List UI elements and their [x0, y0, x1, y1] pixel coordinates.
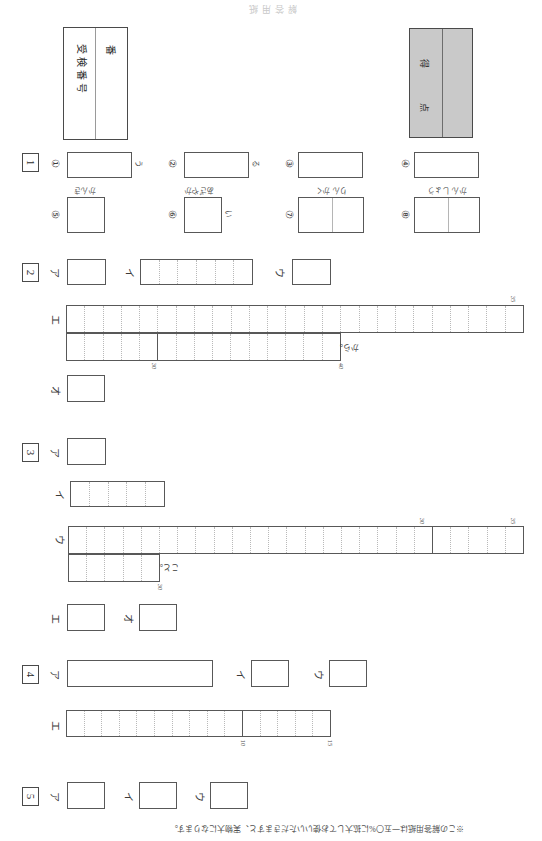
grid-cell[interactable]: [178, 527, 196, 553]
grid-cell[interactable]: [306, 527, 324, 553]
answer-box-4-c[interactable]: [329, 660, 367, 687]
grid-cell[interactable]: [397, 527, 415, 553]
answer-box-2-e[interactable]: [67, 375, 105, 402]
grid-cell[interactable]: [243, 711, 261, 736]
grid-cell[interactable]: [250, 334, 268, 360]
grid-cell[interactable]: [213, 334, 231, 360]
grid-cell[interactable]: [286, 306, 304, 332]
grid-cell[interactable]: [231, 334, 249, 360]
grid-cell[interactable]: [196, 527, 214, 553]
grid-cell[interactable]: [451, 306, 469, 332]
grid-cell[interactable]: [142, 527, 160, 553]
grid-cell[interactable]: [87, 527, 105, 553]
grid-cell[interactable]: [178, 260, 197, 284]
grid-cell[interactable]: [195, 306, 213, 332]
grid-cell[interactable]: [140, 306, 158, 332]
grid-cell[interactable]: [122, 306, 140, 332]
grid-cell[interactable]: [251, 527, 269, 553]
grid-cell[interactable]: [85, 306, 103, 332]
examinee-number-box[interactable]: 受検番号 番: [63, 27, 128, 140]
answer-box-5-c[interactable]: [210, 782, 248, 809]
grid-cell[interactable]: [287, 527, 305, 553]
grid-cell[interactable]: [487, 306, 505, 332]
grid-cell[interactable]: [341, 306, 359, 332]
grid-cell[interactable]: [87, 555, 105, 581]
grid-cell[interactable]: [67, 306, 85, 332]
grid-cell[interactable]: [105, 555, 123, 581]
grid-cell[interactable]: [232, 306, 250, 332]
grid-cell[interactable]: [146, 482, 164, 506]
grid-cell[interactable]: [268, 334, 286, 360]
grid-cell[interactable]: [506, 306, 523, 332]
grid-cell[interactable]: [378, 527, 396, 553]
answer-box-3-a[interactable]: [67, 438, 106, 465]
grid-cell[interactable]: [137, 711, 155, 736]
grid-cell[interactable]: [90, 482, 109, 506]
grid-cell[interactable]: [305, 306, 323, 332]
grid-cell[interactable]: [414, 306, 432, 332]
grid-cell[interactable]: [67, 334, 85, 360]
answer-box-1-5[interactable]: [67, 197, 105, 233]
grid-cell[interactable]: [215, 527, 233, 553]
grid-cell[interactable]: [127, 482, 146, 506]
grid-cell[interactable]: [469, 306, 487, 332]
answer-box-1-1[interactable]: [67, 152, 132, 178]
answer-box-2-a[interactable]: [67, 259, 106, 285]
grid-cell[interactable]: [71, 482, 90, 506]
grid-cell[interactable]: [158, 306, 176, 332]
grid-cell[interactable]: [261, 711, 279, 736]
grid-cell[interactable]: [173, 711, 191, 736]
answer-box-1-2[interactable]: [184, 152, 249, 178]
grid-cell[interactable]: [213, 306, 231, 332]
answer-box-1-7[interactable]: [298, 197, 364, 233]
grid-cell[interactable]: [451, 527, 469, 553]
grid-cell[interactable]: [250, 306, 268, 332]
grid-cell[interactable]: [109, 482, 128, 506]
grid-cell[interactable]: [342, 527, 360, 553]
grid-cell[interactable]: [85, 711, 103, 736]
answer-grid-2-d-row1[interactable]: [66, 305, 524, 333]
grid-cell[interactable]: [506, 527, 523, 553]
answer-box-4-b[interactable]: [251, 660, 289, 687]
answer-grid-3-c-row2[interactable]: [68, 554, 160, 582]
grid-cell[interactable]: [360, 527, 378, 553]
grid-cell[interactable]: [104, 306, 122, 332]
grid-cell[interactable]: [120, 711, 138, 736]
grid-cell[interactable]: [85, 334, 103, 360]
answer-box-1-8[interactable]: [414, 197, 480, 233]
grid-cell[interactable]: [141, 260, 160, 284]
answer-box-5-b[interactable]: [139, 782, 177, 809]
grid-cell[interactable]: [177, 306, 195, 332]
grid-cell[interactable]: [278, 711, 296, 736]
grid-cell[interactable]: [225, 711, 243, 736]
grid-cell[interactable]: [124, 555, 142, 581]
grid-cell[interactable]: [360, 306, 378, 332]
grid-cell[interactable]: [269, 527, 287, 553]
answer-box-3-e[interactable]: [139, 604, 177, 631]
grid-cell[interactable]: [104, 334, 122, 360]
grid-cell[interactable]: [396, 306, 414, 332]
grid-cell[interactable]: [234, 260, 252, 284]
answer-box-5-a[interactable]: [67, 782, 105, 809]
grid-cell[interactable]: [268, 306, 286, 332]
answer-box-1-4[interactable]: [414, 152, 479, 178]
grid-cell[interactable]: [296, 711, 314, 736]
grid-cell[interactable]: [67, 711, 85, 736]
grid-cell[interactable]: [69, 527, 87, 553]
answer-grid-2-d-row2[interactable]: [66, 333, 341, 361]
grid-cell[interactable]: [313, 711, 330, 736]
answer-box-2-c[interactable]: [292, 259, 331, 285]
answer-grid-4-d[interactable]: [66, 710, 331, 737]
grid-cell[interactable]: [378, 306, 396, 332]
grid-cell[interactable]: [122, 334, 140, 360]
answer-grid-2-b[interactable]: [140, 259, 253, 285]
grid-cell[interactable]: [324, 527, 342, 553]
grid-cell[interactable]: [433, 527, 451, 553]
grid-cell[interactable]: [323, 306, 341, 332]
grid-cell[interactable]: [216, 260, 235, 284]
grid-cell[interactable]: [304, 334, 322, 360]
grid-cell[interactable]: [140, 334, 158, 360]
grid-cell[interactable]: [177, 334, 195, 360]
grid-cell[interactable]: [105, 527, 123, 553]
grid-cell[interactable]: [158, 334, 176, 360]
